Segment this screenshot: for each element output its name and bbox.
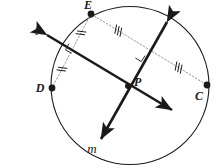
congruence-tick-stroke [76, 34, 84, 35]
geometry-diagram: EDCP ℓm [0, 0, 217, 168]
point-D [49, 85, 56, 92]
circle-geometry-figure: EDCP ℓm [0, 0, 217, 168]
line-label-ell: ℓ [34, 23, 40, 38]
congruence-tick-stroke [175, 62, 177, 70]
point-C [204, 82, 211, 89]
line-label-m: m [87, 141, 96, 156]
congruence-tick-stroke [58, 67, 66, 68]
point-label-P: P [134, 75, 142, 89]
point-label-E: E [83, 0, 92, 12]
point-P [125, 83, 131, 89]
congruence-tick [175, 62, 182, 74]
congruence-tick-stroke [57, 70, 65, 71]
congruence-ticks-group [57, 25, 182, 73]
point-labels-group: EDCP [35, 0, 204, 103]
point-label-D: D [35, 81, 45, 95]
chord-EC [91, 14, 207, 85]
right-angle-marker [135, 56, 145, 62]
congruence-tick-stroke [120, 28, 122, 36]
congruence-tick-stroke [78, 31, 86, 32]
point-label-C: C [195, 89, 204, 103]
congruence-tick [115, 25, 122, 37]
